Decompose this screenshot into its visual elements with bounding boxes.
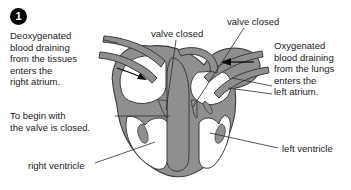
- right-ventricle-cavity: [126, 116, 168, 169]
- heart-wall-shapes: [99, 36, 269, 177]
- callout-valve-closed-left: valve closed: [151, 28, 203, 40]
- heart-diagram-figure: 1: [0, 0, 351, 190]
- callout-deoxygenated-blood: Deoxygenated blood draining from the tis…: [10, 30, 110, 88]
- callout-valve-closed-right: valve closed: [227, 16, 279, 28]
- callout-to-begin-valve-closed: To begin with the valve is closed.: [10, 110, 115, 133]
- left-ventricle-cavity: [199, 116, 230, 169]
- callout-oxygenated-blood: Oxygenated blood draining from the lungs…: [274, 40, 350, 98]
- callout-right-ventricle: right ventricle: [28, 160, 85, 172]
- callout-left-ventricle: left ventricle: [282, 143, 333, 155]
- interventricular-septum: [167, 58, 189, 171]
